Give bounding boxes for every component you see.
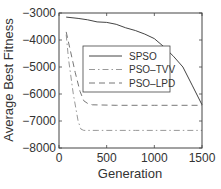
- y-axis-label: Average Best Fitness: [1, 18, 16, 142]
- y-tick-label: −6000: [22, 87, 56, 101]
- legend-label-spso: SPSO: [129, 51, 157, 62]
- y-tick-label: −4000: [22, 33, 56, 47]
- y-tick-label: −7000: [22, 114, 56, 128]
- line-chart: 050010001500−3000−4000−5000−6000−7000−80…: [0, 0, 221, 189]
- y-tick-label: −5000: [22, 60, 56, 74]
- y-tick-label: −3000: [22, 6, 56, 20]
- x-axis-label: Generation: [98, 166, 162, 181]
- legend-label-pso-lpd: PSO–LPD: [129, 78, 175, 89]
- legend-label-pso-tvv: PSO–TVV: [129, 64, 175, 75]
- legend: SPSO PSO–TVV PSO–LPD: [83, 46, 175, 92]
- x-tick-label: 0: [56, 151, 63, 165]
- x-tick-label: 1000: [141, 151, 168, 165]
- x-tick-label: 1500: [189, 151, 216, 165]
- y-tick-label: −8000: [22, 141, 56, 155]
- x-tick-label: 500: [97, 151, 117, 165]
